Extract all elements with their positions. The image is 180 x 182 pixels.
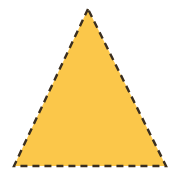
triangle-diagram [0,0,180,182]
dashed-triangle [14,9,166,166]
diagram-canvas [0,0,180,182]
